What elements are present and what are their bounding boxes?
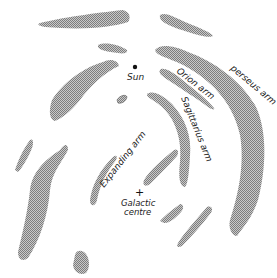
arm-segment-lower-right-a — [160, 204, 183, 223]
arm-segment-lower-right-b — [177, 207, 212, 247]
diagram-canvas: Sun Orion arm perseus arm Sagittarius ar… — [0, 0, 277, 278]
arm-segment-left-large — [50, 60, 119, 121]
sun-label: Sun — [127, 72, 144, 82]
arm-segment-far-left-small — [15, 139, 33, 172]
arm-segment-small-left — [98, 44, 127, 54]
sun-marker-icon — [133, 65, 137, 69]
galaxy-spiral-arms-diagram: Sun Orion arm perseus arm Sagittarius ar… — [0, 0, 277, 278]
small-cloud-bottom — [73, 251, 89, 274]
small-cloud-near-sun — [117, 95, 127, 103]
arm-segment-lower-left-long — [18, 145, 68, 260]
arm-segment-top-right — [160, 14, 213, 37]
galactic-centre-label-line2: centre — [124, 207, 151, 217]
expanding-arm — [143, 149, 178, 185]
expanding-arm-label: Expanding arm — [98, 129, 148, 189]
arm-segment-top-left — [38, 10, 129, 28]
